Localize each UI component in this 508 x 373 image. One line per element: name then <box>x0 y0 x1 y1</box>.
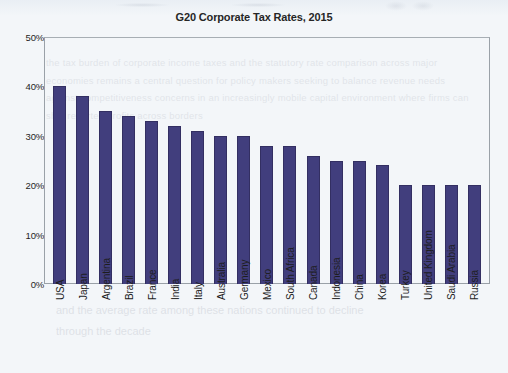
x-axis-tick: USA <box>48 286 71 372</box>
x-axis-tick: South Africa <box>278 286 301 372</box>
x-axis-tick-label: Japan <box>76 287 89 300</box>
bar-slot <box>255 37 278 284</box>
bar-slot <box>94 37 117 284</box>
x-axis-tick: United Kingdom <box>417 286 440 372</box>
x-axis-tick: Korea <box>371 286 394 372</box>
bar-usa <box>53 86 66 284</box>
x-axis-tick-label: Brazil <box>122 287 135 300</box>
x-axis-tick: Indonesia <box>325 286 348 372</box>
bar-slot <box>348 37 371 284</box>
x-axis-tick-label: Saudi Arabia <box>445 287 458 300</box>
bar-india <box>168 126 181 284</box>
bar-slot <box>371 37 394 284</box>
bar-slot <box>140 37 163 284</box>
bar-slot <box>163 37 186 284</box>
x-axis-tick: Italy <box>186 286 209 372</box>
bar-japan <box>76 96 89 284</box>
y-axis-tick-label: 30% <box>4 130 44 141</box>
x-axis-tick: Australia <box>209 286 232 372</box>
x-axis-tick-label: India <box>168 287 181 300</box>
x-axis-tick-label: Argentina <box>99 287 112 300</box>
x-axis-tick: Brazil <box>117 286 140 372</box>
bar-mexico <box>260 146 273 284</box>
bar-slot <box>463 37 486 284</box>
bar-slot <box>325 37 348 284</box>
x-axis-tick-label: Korea <box>376 287 389 300</box>
y-axis-tick-label: 50% <box>4 32 44 43</box>
bar-slot <box>302 37 325 284</box>
x-axis-tick: Russia <box>463 286 486 372</box>
x-axis: USAJapanArgentinaBrazilFranceIndiaItalyA… <box>44 286 490 372</box>
bar-italy <box>191 131 204 284</box>
bar-slot <box>232 37 255 284</box>
x-axis-tick: Canada <box>302 286 325 372</box>
x-axis-tick: Saudi Arabia <box>440 286 463 372</box>
x-axis-tick-label: Mexico <box>260 287 273 300</box>
x-axis-tick: Mexico <box>255 286 278 372</box>
x-axis-tick: Argentina <box>94 286 117 372</box>
x-axis-tick-label: Indonesia <box>330 287 343 300</box>
x-axis-tick: Japan <box>71 286 94 372</box>
x-axis-tick-label: Italy <box>191 287 204 300</box>
x-axis-tick-label: United Kingdom <box>422 287 435 300</box>
x-axis-tick-label: France <box>145 287 158 300</box>
bar-slot <box>209 37 232 284</box>
bar-brazil <box>122 116 135 284</box>
y-axis: 50%40%30%20%10%0% <box>0 0 44 373</box>
x-axis-tick: Germany <box>232 286 255 372</box>
bar-korea <box>376 165 389 284</box>
x-axis-tick-label: Australia <box>214 287 227 300</box>
x-axis-tick: France <box>140 286 163 372</box>
y-axis-tick-label: 40% <box>4 81 44 92</box>
x-axis-tick: China <box>348 286 371 372</box>
x-axis-tick-label: Canada <box>307 287 320 300</box>
x-axis-tick: India <box>163 286 186 372</box>
x-axis-tick-label: Turkey <box>399 287 412 300</box>
x-axis-tick-label: Russia <box>468 287 481 300</box>
bar-slot <box>48 37 71 284</box>
chart-title: G20 Corporate Tax Rates, 2015 <box>0 11 508 23</box>
bar-canada <box>307 156 320 284</box>
bar-slot <box>71 37 94 284</box>
y-axis-tick-label: 20% <box>4 180 44 191</box>
x-axis-tick: Turkey <box>394 286 417 372</box>
x-axis-tick-label: USA <box>53 287 66 300</box>
y-axis-tick-label: 0% <box>4 279 44 290</box>
bar-china <box>353 161 366 285</box>
bar-slot <box>186 37 209 284</box>
y-axis-tick-label: 10% <box>4 229 44 240</box>
bar-slot <box>394 37 417 284</box>
x-axis-tick-label: Germany <box>237 287 250 300</box>
bar-france <box>145 121 158 284</box>
x-axis-tick-label: South Africa <box>283 287 296 300</box>
bar-slot <box>117 37 140 284</box>
x-axis-tick-label: China <box>353 287 366 300</box>
